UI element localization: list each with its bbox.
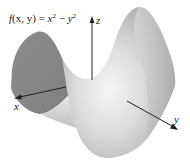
function-formula: f(x, y) = x2 − y2 <box>9 13 76 24</box>
formula-term2-exponent: 2 <box>73 12 77 20</box>
z-axis-label: z <box>96 15 100 26</box>
x-axis-label: x <box>14 101 19 112</box>
formula-args: (x, y) <box>12 12 36 24</box>
z-axis-arrowhead <box>90 16 95 23</box>
saddle-surface-figure: f(x, y) = x2 − y2 z x y <box>0 0 190 163</box>
y-axis-label: y <box>174 114 179 125</box>
saddle-surface-graphic <box>0 0 190 163</box>
formula-equals: = <box>36 12 48 24</box>
formula-minus: − <box>56 12 68 24</box>
